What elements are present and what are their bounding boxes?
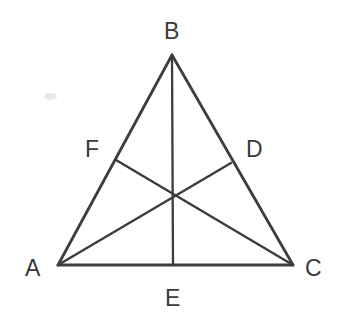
point-label-d: D	[246, 138, 263, 161]
point-label-a: A	[25, 257, 40, 280]
point-label-f: F	[85, 138, 99, 161]
median-BE	[172, 55, 173, 265]
point-label-e: E	[165, 287, 180, 310]
scan-artifact	[44, 93, 57, 100]
geometry-figure: A B C D E F	[0, 0, 338, 329]
median-CF	[116, 160, 293, 265]
point-label-c: C	[305, 257, 322, 280]
point-label-b: B	[164, 20, 179, 43]
triangle-medians-svg	[0, 0, 338, 329]
triangle-side-BC	[172, 55, 293, 265]
